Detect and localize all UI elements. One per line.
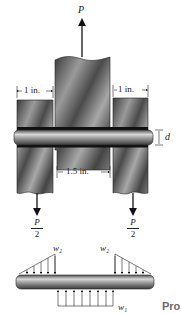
pin xyxy=(14,130,153,145)
reaction-left-numerator: P xyxy=(31,218,43,229)
label-right-load-w2: w₂ xyxy=(100,244,109,253)
label-left-load-w2: w₂ xyxy=(53,244,62,253)
center-uniform-load xyxy=(58,291,113,306)
corner-text: Pro xyxy=(162,300,180,312)
reaction-label-right: P 2 xyxy=(127,218,139,239)
load-label-p: P xyxy=(78,5,84,15)
left-triangular-load xyxy=(19,254,55,274)
label-center-gap: 1.5 in. xyxy=(66,167,89,176)
label-left-plate-width: 1 in. xyxy=(24,86,40,95)
pin-connection-diagram xyxy=(0,0,181,314)
label-center-load-w1: w₁ xyxy=(118,303,127,312)
pin-gap-top xyxy=(17,127,148,130)
label-pin-diameter: d xyxy=(165,132,170,142)
reaction-left-denominator: 2 xyxy=(31,229,43,239)
label-right-plate-width: 1 in. xyxy=(118,85,134,94)
reaction-right-denominator: 2 xyxy=(127,229,139,239)
right-triangular-load xyxy=(115,254,151,274)
pin-gap-bottom xyxy=(17,145,148,148)
dimension-pin-diameter xyxy=(155,130,163,145)
center-bar xyxy=(55,57,110,171)
reaction-right-numerator: P xyxy=(127,218,139,229)
free-body-pin xyxy=(16,275,154,289)
reaction-label-left: P 2 xyxy=(31,218,43,239)
